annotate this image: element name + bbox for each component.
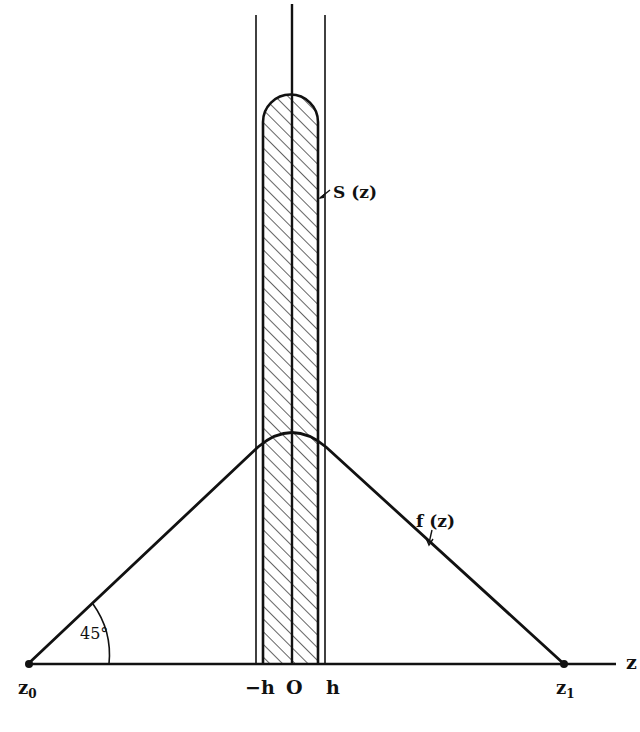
z-axis-label: z <box>626 651 637 673</box>
origin-label: O <box>286 676 303 698</box>
s-label: S (z) <box>333 182 377 202</box>
z0-point <box>25 660 33 668</box>
z1-label: z1 <box>556 677 575 701</box>
neg-h-label: −h <box>245 676 275 698</box>
h-label: h <box>326 676 340 698</box>
diagram: S (z) f (z) 45° z0 z1 −h O h z <box>0 0 640 732</box>
support-strip <box>263 90 318 664</box>
z1-point <box>560 660 568 668</box>
f-label: f (z) <box>416 511 455 531</box>
angle-label: 45° <box>80 624 108 643</box>
z0-label: z0 <box>18 677 37 701</box>
